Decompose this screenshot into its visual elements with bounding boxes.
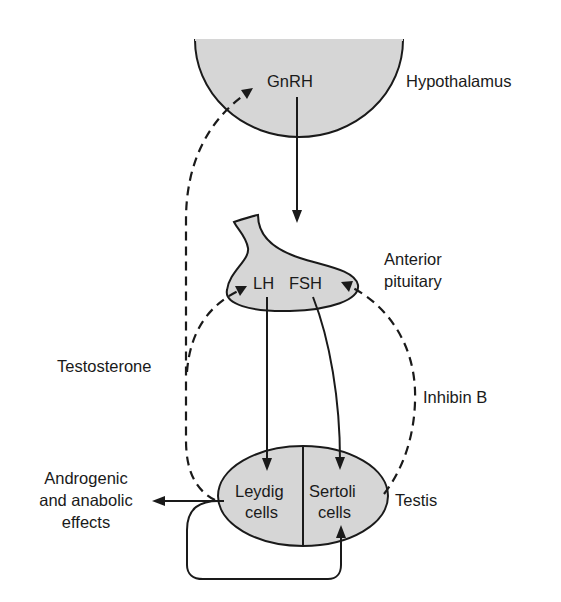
- testis-label: Testis: [395, 491, 437, 509]
- hypothalamus-label: Hypothalamus: [406, 72, 511, 90]
- testosterone-label: Testosterone: [57, 357, 151, 375]
- fsh-label: FSH: [289, 274, 322, 292]
- lh-arrow: [262, 297, 272, 471]
- leydig-cells-label: cells: [245, 503, 278, 521]
- hpg-axis-diagram: GnRH Hypothalamus Anterior pituitary LH …: [0, 0, 561, 602]
- gnrh-label: GnRH: [267, 72, 313, 90]
- fsh-arrow: [313, 297, 345, 470]
- sertoli-label: Sertoli: [309, 482, 356, 500]
- sertoli-cells-label: cells: [318, 503, 351, 521]
- pituitary-label: pituitary: [384, 272, 443, 290]
- lh-label: LH: [253, 274, 274, 292]
- effects-label-line3: effects: [62, 513, 110, 531]
- effects-label-line1: Androgenic: [44, 469, 127, 487]
- anterior-label: Anterior: [384, 250, 442, 268]
- inhibin-label: Inhibin B: [423, 388, 487, 406]
- effects-label-line2: and anabolic: [39, 491, 133, 509]
- pituitary-shape: [227, 215, 358, 311]
- leydig-label: Leydig: [235, 482, 284, 500]
